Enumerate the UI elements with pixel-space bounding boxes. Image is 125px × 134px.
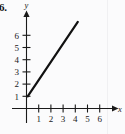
y-tick-label-4: 4 bbox=[15, 55, 20, 65]
x-tick-label-4: 4 bbox=[73, 114, 78, 124]
y-axis-arrowhead bbox=[23, 11, 29, 18]
y-tick-label-1: 1 bbox=[15, 92, 20, 102]
y-tick-label-2: 2 bbox=[15, 79, 20, 89]
x-tick-label-3: 3 bbox=[61, 114, 66, 124]
x-tick-label-2: 2 bbox=[49, 114, 54, 124]
y-tick-label-5: 5 bbox=[15, 43, 20, 53]
y-tick-label-3: 3 bbox=[15, 67, 20, 77]
x-tick-label-1: 1 bbox=[36, 114, 41, 124]
x-axis-label: x bbox=[117, 104, 122, 114]
y-tick-label-6: 6 bbox=[15, 31, 20, 41]
y-axis-label: y bbox=[24, 0, 29, 10]
x-tick-label-6: 6 bbox=[97, 114, 102, 124]
graph-figure: 6. 1 2 3 4 5 bbox=[0, 0, 125, 134]
line-segment bbox=[28, 22, 78, 96]
coordinate-plane: 1 2 3 4 5 6 1 2 3 4 5 6 x y bbox=[0, 0, 125, 134]
x-tick-label-5: 5 bbox=[85, 114, 90, 124]
